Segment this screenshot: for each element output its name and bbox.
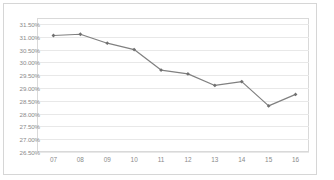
data-point-marker bbox=[78, 32, 82, 36]
data-point-marker bbox=[52, 34, 56, 38]
data-point-marker bbox=[105, 41, 109, 45]
x-axis: 07080910111213141516 bbox=[40, 156, 309, 170]
chart-frame: 31.50%31.00%30.50%30.00%29.50%29.00%28.5… bbox=[3, 3, 317, 175]
y-axis-tick-label: 29.50% bbox=[20, 72, 40, 79]
y-axis-tick-label: 30.00% bbox=[20, 59, 40, 66]
y-axis-tick-label: 31.00% bbox=[20, 33, 40, 40]
x-axis-tick-label: 11 bbox=[158, 156, 165, 163]
line-series bbox=[40, 24, 309, 152]
x-axis-tick-label: 14 bbox=[238, 156, 245, 163]
y-axis-tick-label: 26.50% bbox=[20, 149, 40, 156]
y-axis-tick-label: 28.00% bbox=[20, 110, 40, 117]
y-axis-tick-label: 30.50% bbox=[20, 46, 40, 53]
x-axis-tick-label: 07 bbox=[50, 156, 57, 163]
data-point-marker bbox=[213, 84, 217, 88]
x-axis-tick-label: 15 bbox=[265, 156, 272, 163]
x-axis-tick-label: 12 bbox=[184, 156, 191, 163]
y-axis-tick-label: 28.50% bbox=[20, 97, 40, 104]
x-axis-tick-label: 09 bbox=[104, 156, 111, 163]
series-line bbox=[53, 34, 295, 106]
x-axis-tick-label: 16 bbox=[292, 156, 299, 163]
gridline bbox=[40, 152, 309, 153]
plot-area bbox=[40, 24, 309, 152]
data-point-marker bbox=[186, 72, 190, 76]
x-axis-tick-label: 10 bbox=[131, 156, 138, 163]
y-axis-tick-label: 27.00% bbox=[20, 136, 40, 143]
y-axis-tick-label: 29.00% bbox=[20, 85, 40, 92]
x-axis-tick-label: 13 bbox=[211, 156, 218, 163]
y-axis-tick-label: 31.50% bbox=[20, 21, 40, 28]
data-point-marker bbox=[294, 93, 298, 97]
y-axis: 31.50%31.00%30.50%30.00%29.50%29.00%28.5… bbox=[10, 24, 40, 152]
y-axis-tick-label: 27.50% bbox=[20, 123, 40, 130]
x-axis-tick-label: 08 bbox=[77, 156, 84, 163]
